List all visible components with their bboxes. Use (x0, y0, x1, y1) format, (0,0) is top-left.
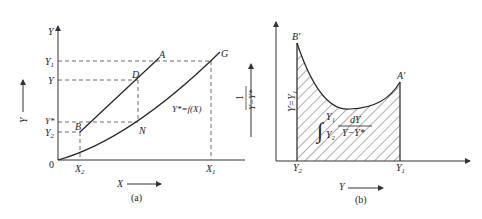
y-tick-y1: Y1 (45, 56, 54, 69)
svg-text:1: 1 (234, 95, 245, 100)
y-tick-y2: Y2 (45, 127, 55, 140)
x-tick-y2-b: Y2 (293, 162, 303, 175)
point-b-label: B (75, 121, 81, 132)
point-a-label: A (158, 49, 166, 60)
x-direction-label: X (116, 178, 124, 189)
y-tick-y: Y (48, 75, 55, 86)
y-axis-label-a: Y (48, 26, 55, 37)
integral-lower: Y₂ (326, 129, 336, 140)
panel-b: B′ A′ Y=Y₁ ∫ Y₁ Y₂ dY Y−Y* Y2 Y1 Y (b) 1… (234, 22, 470, 206)
integral-upper: Y₁ (326, 111, 335, 122)
operating-line (80, 58, 159, 132)
side-label-b: 1 Y−Y* (234, 86, 257, 110)
panel-a: A B D N G Y*=f(X) Y 0 Y1 Y Y* Y2 X2 X1 X… (18, 26, 245, 204)
caption-b: (b) (355, 194, 367, 206)
vertical-line-label: Y=Y₁ (286, 91, 297, 112)
side-label-a: Y (18, 116, 29, 123)
point-g-label: G (221, 48, 228, 59)
integral-denominator: Y−Y* (342, 127, 365, 138)
caption-a: (a) (131, 192, 142, 204)
x-direction-label-b: Y (339, 181, 346, 192)
x-tick-y1-b: Y1 (396, 162, 405, 175)
x-tick-x1: X1 (205, 163, 216, 176)
equilibrium-label: Y*=f(X) (172, 104, 202, 114)
y-tick-ystar: Y* (45, 116, 55, 126)
figure: A B D N G Y*=f(X) Y 0 Y1 Y Y* Y2 X2 X1 X… (0, 0, 482, 219)
origin-label: 0 (49, 159, 54, 170)
integral-numerator: dY (350, 114, 362, 125)
integral-area (297, 43, 400, 161)
point-n-label: N (138, 125, 147, 136)
point-d-label: D (131, 69, 140, 80)
x-tick-x2: X2 (74, 163, 85, 176)
svg-text:Y−Y*: Y−Y* (247, 89, 257, 110)
integral-expression: ∫ Y₁ Y₂ dY Y−Y* (315, 107, 388, 144)
point-a-prime-label: A′ (396, 70, 406, 81)
point-b-prime-label: B′ (292, 31, 301, 42)
